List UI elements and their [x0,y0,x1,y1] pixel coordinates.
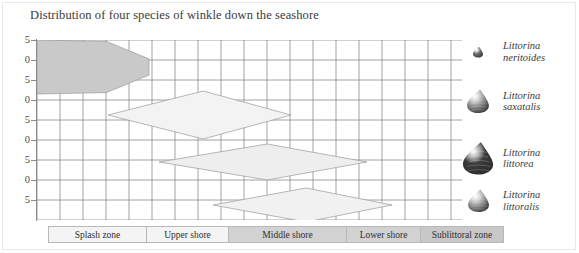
y-axis-tick [31,100,37,101]
shell-large-dark-icon [455,140,501,176]
species-legend: LittorinaneritoidesLittorinasaxatalisLit… [455,36,579,226]
kite-diagram-figure: Distribution of four species of winkle d… [0,0,579,253]
legend-species-name: Littorinalittorea [501,147,540,170]
y-axis-tick-label: 5 [8,155,30,165]
y-axis-tick-label: 0 [8,55,30,65]
plot-area [37,40,462,220]
y-axis-tick [31,120,37,121]
legend-species-name: Littorinaneritoides [501,40,545,63]
y-axis-tick [31,80,37,81]
y-axis-tick-label: 5 [8,115,30,125]
y-axis-tick-label: 5 [8,195,30,205]
y-axis-tick [31,160,37,161]
legend-item-littoralis: Littorinalittoralis [455,188,579,213]
legend-epithet: neritoides [503,52,545,64]
kite-littorina-littorea [159,144,367,180]
zone-sublittoral-zone: Sublittoral zone [421,227,503,242]
legend-species-name: Littorinasaxatalis [501,90,540,113]
zone-lower-shore: Lower shore [347,227,421,242]
zone-upper-shore: Upper shore [147,227,229,242]
y-axis-labels: 505050505 [0,0,30,253]
y-axis-tick-label: 0 [8,95,30,105]
legend-item-littorea: Littorinalittorea [455,140,579,176]
y-axis-tick-label: 0 [8,175,30,185]
kite-littorina-littoralis [213,188,392,220]
kite-littorina-saxatalis [108,91,291,139]
legend-genus: Littorina [503,40,545,52]
zone-splash-zone: Splash zone [49,227,147,242]
legend-item-neritoides: Littorinaneritoides [455,40,579,63]
shell-small-dark-icon [455,46,501,58]
legend-item-saxatalis: Littorinasaxatalis [455,88,579,114]
legend-genus: Littorina [503,147,540,159]
shore-zone-bar: Splash zoneUpper shoreMiddle shoreLower … [48,226,504,243]
shell-medium-grey-icon [455,88,501,114]
y-axis-tick [31,40,37,41]
legend-epithet: littoralis [503,201,540,213]
shell-medium-light-icon [455,188,501,213]
species-distribution-kites [37,40,462,220]
y-axis-tick-label: 5 [8,35,30,45]
legend-genus: Littorina [503,90,540,102]
legend-epithet: saxatalis [503,101,540,113]
y-axis-tick-label: 0 [8,135,30,145]
kite-littorina-neritoides [37,40,149,94]
legend-epithet: littorea [503,158,540,170]
y-axis-tick-label: 5 [8,75,30,85]
y-axis-tick [31,200,37,201]
zone-middle-shore: Middle shore [229,227,347,242]
legend-species-name: Littorinalittoralis [501,189,540,212]
legend-genus: Littorina [503,189,540,201]
y-axis-tick [31,60,37,61]
y-axis-tick [31,140,37,141]
y-axis-tick [31,180,37,181]
chart-title: Distribution of four species of winkle d… [30,8,319,23]
